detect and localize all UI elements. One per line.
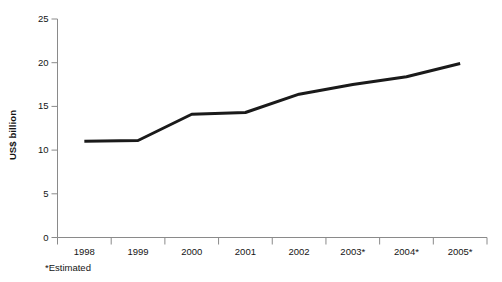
plot-area: [0, 0, 502, 282]
data-series-line: [84, 64, 460, 142]
y-axis-ticks: [52, 19, 58, 238]
line-chart: US$ billion 0510152025 19981999200020012…: [0, 0, 502, 282]
footnote-estimated: *Estimated: [45, 262, 91, 273]
axis-lines: [58, 19, 488, 238]
x-axis-ticks: [58, 238, 488, 245]
